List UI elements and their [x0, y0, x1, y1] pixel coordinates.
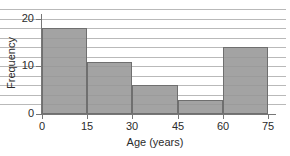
- x-tick-label: 0: [39, 120, 45, 132]
- y-tick-mark: [36, 114, 41, 115]
- y-axis-ticks: 01020: [0, 0, 290, 156]
- x-tick-mark: [178, 114, 179, 119]
- x-tick-mark: [223, 114, 224, 119]
- x-tick-label: 15: [81, 120, 93, 132]
- x-axis-title: Age (years): [42, 136, 268, 148]
- x-tick-label: 60: [217, 120, 229, 132]
- y-axis-title: Frequency: [5, 23, 17, 103]
- histogram-chart: 01020 01530456075 Age (years) Frequency: [0, 0, 290, 156]
- x-tick-mark: [42, 114, 43, 119]
- x-tick-mark: [268, 114, 269, 119]
- x-tick-mark: [132, 114, 133, 119]
- x-tick-label: 75: [262, 120, 274, 132]
- y-tick-label: 20: [0, 12, 34, 24]
- y-tick-label: 0: [0, 107, 34, 119]
- y-tick-mark: [36, 66, 41, 67]
- x-tick-label: 30: [126, 120, 138, 132]
- x-tick-label: 45: [172, 120, 184, 132]
- x-tick-mark: [87, 114, 88, 119]
- y-tick-mark: [36, 19, 41, 20]
